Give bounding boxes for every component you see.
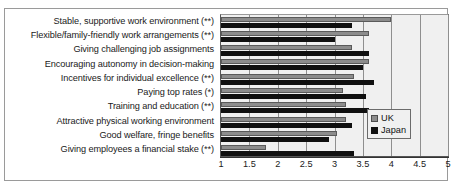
bar-japan — [221, 23, 352, 28]
bar-group — [221, 144, 448, 158]
bar-uk — [221, 88, 343, 93]
bar-group — [221, 87, 448, 101]
category-label: Incentives for individual excellence (**… — [61, 72, 214, 85]
category-label: Giving employees a financial stake (**) — [61, 143, 214, 156]
x-tick-label: 1 — [218, 159, 223, 169]
legend-label: UK — [381, 113, 394, 123]
bar-uk — [221, 145, 266, 150]
bar-group — [221, 58, 448, 72]
category-label: Good welfare, fringe benefits — [99, 129, 214, 142]
bar-japan — [221, 123, 352, 128]
legend-swatch-icon — [371, 115, 378, 122]
chart-figure-frame: Stable, supportive work environment (**)… — [4, 8, 448, 181]
chart-screenshot: Stable, supportive work environment (**)… — [0, 0, 455, 193]
bar-uk — [221, 17, 391, 22]
category-label: Attractive physical working environment — [57, 115, 214, 128]
x-tick-label: 1.5 — [243, 159, 256, 169]
legend-item-japan: Japan — [371, 124, 406, 136]
bar-uk — [221, 45, 352, 50]
legend-label: Japan — [381, 125, 406, 135]
bar-group — [221, 101, 448, 115]
legend-swatch-icon — [371, 127, 378, 134]
bar-uk — [221, 31, 369, 36]
legend-item-uk: UK — [371, 112, 406, 124]
bar-japan — [221, 80, 374, 85]
bar-uk — [221, 117, 346, 122]
bar-japan — [221, 37, 335, 42]
x-tick-label: 4 — [389, 159, 394, 169]
category-label: Stable, supportive work environment (**) — [54, 15, 214, 28]
x-tick-label: 3.5 — [356, 159, 369, 169]
x-axis-line — [220, 157, 449, 158]
gridline — [448, 15, 449, 156]
bar-japan — [221, 51, 369, 56]
category-label: Giving challenging job assignments — [73, 43, 214, 56]
bar-group — [221, 72, 448, 86]
x-axis-tick-labels: 11.522.533.544.55 — [220, 159, 449, 173]
category-label: Flexible/family-friendly work arrangemen… — [31, 29, 214, 42]
bar-group — [221, 29, 448, 43]
category-axis-labels: Stable, supportive work environment (**)… — [5, 9, 218, 180]
bar-japan — [221, 94, 366, 99]
x-tick-label: 4.5 — [413, 159, 426, 169]
bar-uk — [221, 131, 337, 136]
bar-uk — [221, 59, 369, 64]
bar-group — [221, 129, 448, 143]
bar-group — [221, 44, 448, 58]
bar-japan — [221, 151, 354, 156]
bar-uk — [221, 74, 354, 79]
bar-japan — [221, 108, 369, 113]
x-tick-label: 3 — [332, 159, 337, 169]
category-label: Training and education (**) — [108, 100, 214, 113]
category-label: Paying top rates (*) — [137, 86, 214, 99]
bar-japan — [221, 65, 363, 70]
x-tick-label: 5 — [445, 159, 450, 169]
bar-uk — [221, 102, 346, 107]
bar-group — [221, 115, 448, 129]
bar-group — [221, 15, 448, 29]
x-tick-label: 2.5 — [300, 159, 313, 169]
plot-area — [220, 14, 449, 157]
x-tick-label: 2 — [275, 159, 280, 169]
category-label: Encouraging autonomy in decision-making — [45, 58, 214, 71]
bar-japan — [221, 137, 329, 142]
chart-legend: UKJapan — [367, 109, 411, 139]
